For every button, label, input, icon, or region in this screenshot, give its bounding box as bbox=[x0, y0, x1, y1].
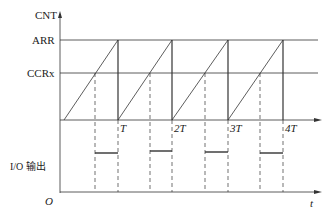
y-axis-arrow-icon bbox=[58, 11, 62, 18]
y-axis-label: CNT bbox=[35, 9, 57, 21]
counter-axis-arrow-icon bbox=[314, 118, 322, 122]
pwm-timing-diagram bbox=[0, 0, 329, 217]
sawtooth-counter bbox=[64, 40, 283, 120]
io-output-label: I/O 输出 bbox=[10, 158, 46, 173]
period-label-2: 2T bbox=[174, 122, 186, 134]
counter-reset-lines bbox=[118, 40, 283, 120]
time-axis-arrow-icon bbox=[314, 190, 322, 194]
arr-label: ARR bbox=[32, 34, 55, 46]
period-label-3: 3T bbox=[230, 122, 242, 134]
origin-label: O bbox=[45, 195, 53, 207]
period-label-1: T bbox=[120, 122, 126, 134]
io-output-pulses bbox=[95, 151, 283, 153]
time-label: t bbox=[310, 197, 313, 209]
ccr-label: CCRx bbox=[27, 67, 55, 79]
period-label-4: 4T bbox=[285, 122, 297, 134]
